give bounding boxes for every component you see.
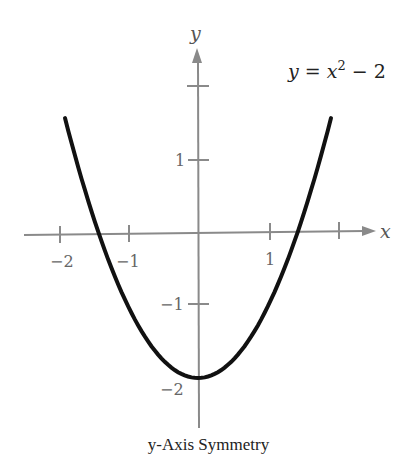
tick-label-x-1: 1 xyxy=(265,250,275,269)
chart-figure: −2 −1 1 1 −1 −2 y x y = x2 − 2 y-Axis Sy… xyxy=(0,0,417,462)
x-axis xyxy=(24,231,365,235)
tick-label-x-neg1: −1 xyxy=(116,252,140,271)
x-axis-label: x xyxy=(380,220,391,242)
tick-label-y-neg2: −2 xyxy=(160,380,184,399)
y-axis-label: y xyxy=(189,22,201,44)
tick-label-y-neg1: −1 xyxy=(160,295,184,314)
y-axis-arrow-icon xyxy=(192,48,202,63)
figure-caption: y-Axis Symmetry xyxy=(0,435,417,455)
tick-label-y-1: 1 xyxy=(175,151,185,170)
x-axis-arrow-icon xyxy=(362,226,376,236)
y-axis xyxy=(198,62,199,428)
equation-label: y = x2 − 2 xyxy=(287,58,386,82)
tick-label-x-neg2: −2 xyxy=(50,252,74,271)
plot-area: −2 −1 1 1 −1 −2 y x y = x2 − 2 xyxy=(0,0,417,462)
